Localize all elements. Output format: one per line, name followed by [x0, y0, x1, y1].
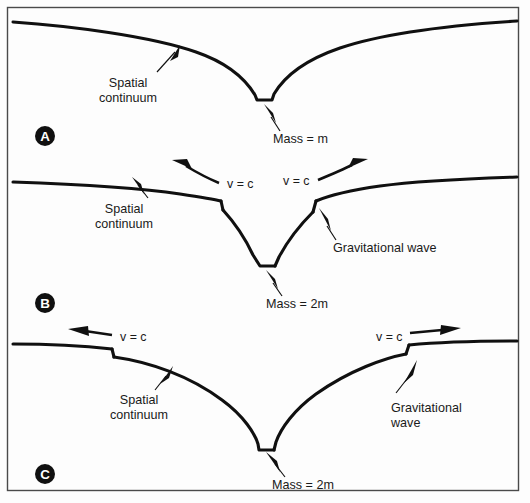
panel-a-continuum-arrowhead	[170, 45, 180, 61]
panel-c-wave-arrowhead	[404, 360, 417, 383]
panel-b-vc-right-label: v = c	[283, 174, 310, 188]
panel-b-vc-right-arrowhead	[348, 158, 368, 168]
panel-a-continuum-leader	[157, 52, 175, 72]
panel-b-continuum-curve-left	[13, 182, 221, 201]
panel-c-wave-label-line1: Gravitational	[391, 401, 462, 415]
panel-b-vc-left-label: v = c	[227, 177, 254, 191]
panel-a-mass-leader	[271, 117, 280, 131]
panel-b-well-left	[223, 210, 275, 266]
panel-c-continuum-curve-right	[409, 341, 517, 345]
panel-c-continuum-curve-left	[13, 344, 112, 349]
panel-b-continuum-label-line2: continuum	[95, 217, 153, 231]
panel-a-continuum-label-line1: Spatial	[109, 76, 148, 90]
panel-c-wave-label-line2: wave	[390, 416, 420, 430]
panel-c-marker-letter: C	[40, 467, 50, 482]
panel-c-vc-left-label: v = c	[120, 330, 147, 344]
panel-c-continuum-label-line2: continuum	[110, 408, 168, 422]
panel-c-vc-right-shaft	[410, 330, 442, 333]
panel-b-vc-right-shaft	[318, 165, 352, 180]
panel-b-continuum-curve-right	[316, 177, 517, 201]
panel-a-continuum-curve	[13, 21, 517, 100]
panel-b-mass-label: Mass = 2m	[266, 297, 328, 311]
panel-a-mass-label: Mass = m	[273, 132, 328, 146]
panel-b-well-right	[275, 212, 313, 266]
panel-a-continuum-label-line2: continuum	[99, 91, 157, 105]
panel-c-well-right	[274, 354, 406, 450]
figure-border	[8, 8, 519, 491]
panel-c-mass-label: Mass = 2m	[272, 478, 334, 492]
panel-b-continuum-label-line1: Spatial	[105, 202, 144, 216]
panel-c-vc-right-label: v = c	[376, 330, 403, 344]
panel-c-vc-left-shaft	[85, 331, 112, 335]
panel-b-marker-letter: B	[40, 296, 50, 311]
panel-b-wave-label: Gravitational wave	[333, 241, 437, 255]
panel-c-mass-arrowhead	[266, 452, 280, 472]
panel-c-vc-right-arrowhead	[440, 325, 461, 335]
panel-a: Spatial continuum Mass = m A	[13, 21, 517, 146]
panel-c-continuum-label-line1: Spatial	[120, 393, 159, 407]
panel-b-vc-left-arrowhead	[172, 159, 192, 169]
panel-b-mass-arrowhead	[266, 270, 278, 289]
gravitational-wave-diagram: Spatial continuum Mass = m A v = c	[0, 0, 530, 503]
panel-b-wavefront-right-kink	[313, 201, 316, 212]
panel-b-wave-arrowhead	[319, 208, 331, 231]
panel-a-mass-arrowhead	[264, 104, 276, 123]
panel-b-mass-leader	[273, 283, 282, 296]
panel-c-vc-left-arrowhead	[68, 326, 89, 336]
panel-b: v = c v = c Spatial continuum Gravitatio…	[13, 158, 517, 313]
panel-a-marker-letter: A	[40, 129, 50, 144]
panel-b-vc-left-shaft	[186, 166, 219, 183]
panel-c: v = c v = c Spatial continuum Gravitatio…	[13, 325, 517, 492]
panel-b-wave-leader	[327, 226, 336, 240]
panel-b-continuum-arrowhead	[132, 177, 144, 194]
